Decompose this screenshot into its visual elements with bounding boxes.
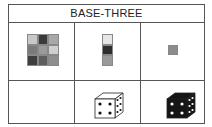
unit-cell [48, 55, 59, 66]
three-by-three-square [27, 34, 59, 66]
unit-cell [27, 55, 38, 66]
column-divider [140, 22, 141, 123]
unit-cell [48, 34, 59, 45]
unit-cell [102, 55, 113, 66]
unit-cell [27, 45, 38, 56]
unit-cell [102, 45, 113, 56]
unit-cell [38, 55, 49, 66]
white-die-icon [91, 90, 131, 120]
black-die-icon [163, 90, 203, 120]
unit-cell [48, 45, 59, 56]
unit-cell [27, 34, 38, 45]
row-divider [9, 80, 204, 81]
unit-cell [38, 34, 49, 45]
base-three-table: BASE-THREE [8, 4, 205, 124]
unit-square [168, 45, 178, 55]
three-by-one-column [102, 34, 112, 66]
unit-cell [38, 45, 49, 56]
unit-cell [102, 34, 113, 45]
unit-cell [168, 45, 178, 55]
table-title: BASE-THREE [9, 5, 204, 23]
column-divider [74, 22, 75, 123]
